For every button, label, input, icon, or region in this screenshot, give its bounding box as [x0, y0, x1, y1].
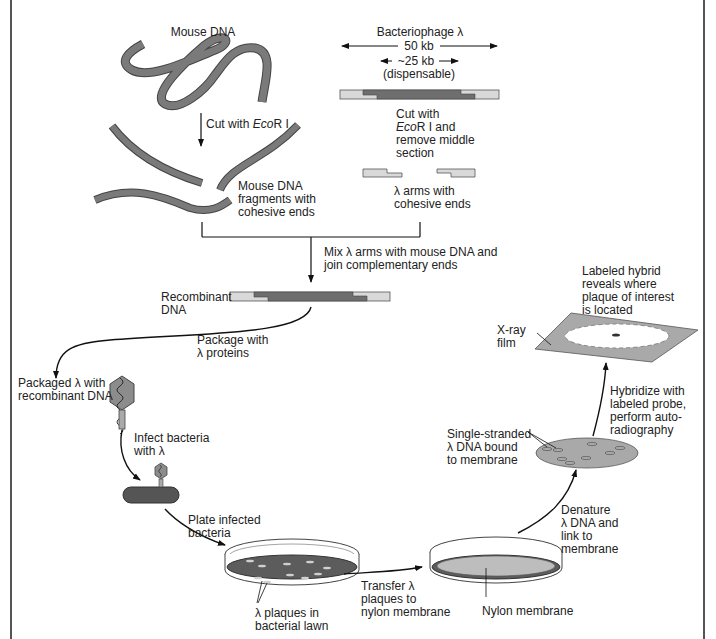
xray-film [535, 313, 698, 362]
plate-infected-label: Plate infected bacteria [188, 514, 261, 540]
dispensable-label: (dispensable) [375, 68, 463, 81]
infect-bacteria-label: Infect bacteria with λ [134, 432, 209, 458]
transfer-plaques-label: Transfer λ plaques to nylon membrane [361, 580, 450, 619]
recombinant-dna-bar [230, 292, 390, 301]
mouse-dna-label: Mouse DNA [153, 26, 253, 39]
cut-remove-italic: Eco [396, 120, 417, 134]
mix-join-label: Mix λ arms with mouse DNA and join compl… [324, 246, 497, 272]
cut-remove-line3: remove middle section [396, 133, 475, 160]
package-arrow [56, 307, 311, 378]
lambda-arms-label: λ arms with cohesive ends [394, 185, 471, 211]
labeled-hybrid-label: Labeled hybrid reveals where plaque of i… [582, 265, 674, 317]
bacterium-icon [123, 463, 179, 503]
membrane-ssdna [528, 432, 638, 468]
single-stranded-label: Single-stranded λ DNA bound to membrane [447, 428, 531, 467]
lambda-arms [363, 169, 475, 177]
cut-ecori-italic: Eco [253, 117, 274, 131]
packaged-lambda-label: Packaged λ with recombinant DNA [18, 377, 113, 403]
cut-remove-label: Cut withEcoR I andremove middle section [396, 108, 475, 160]
cut-remove-line1: Cut with [396, 107, 439, 121]
nylon-membrane-label: Nylon membrane [482, 605, 573, 618]
size-50kb-label: 50 kb [399, 40, 439, 53]
bacteriophage-label: Bacteriophage λ [365, 26, 475, 39]
hybridize-label: Hybridize with labeled probe, perform au… [610, 385, 686, 437]
cloning-diagram: Mouse DNA Bacteriophage λ 50 kb ~25 kb (… [0, 0, 716, 639]
cut-remove-line2: R I and [417, 120, 456, 134]
denature-label: Denature λ DNA and link to membrane [561, 504, 618, 556]
plaques-in-lawn-label: λ plaques in bacterial lawn [255, 607, 328, 633]
cut-ecori-label: Cut with EcoR I [206, 118, 289, 131]
mouse-fragments-label: Mouse DNA fragments with cohesive ends [238, 180, 316, 219]
cut-ecori-suffix: R I [273, 117, 288, 131]
cut-ecori-prefix: Cut with [206, 117, 253, 131]
xray-film-label: X-ray film [497, 324, 526, 350]
lambda-genome-bar [340, 90, 499, 99]
petri-dish-lawn [225, 539, 359, 603]
packaged-phage-icon [110, 376, 134, 434]
package-with-label: Package with λ proteins [197, 334, 268, 360]
recombinant-dna-label: Recombinant DNA [161, 291, 232, 317]
hybridize-arrow [593, 363, 606, 436]
mouse-dna-strand [125, 38, 267, 106]
